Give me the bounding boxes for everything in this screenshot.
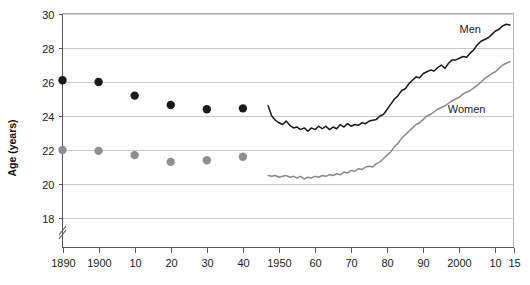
data-point-marker [239, 153, 247, 161]
y-axis-title: Age (years) [6, 119, 18, 176]
women-trend-line [268, 62, 510, 179]
data-point-marker [203, 156, 211, 164]
data-point-marker [94, 147, 102, 155]
men-data-points-group [58, 76, 247, 113]
x-tick-label: 80 [381, 257, 393, 269]
x-tick-label: 1890 [51, 257, 75, 269]
data-point-marker [203, 105, 211, 113]
data-point-marker [167, 158, 175, 166]
x-tick-label: 1900 [87, 257, 111, 269]
data-point-marker [94, 78, 102, 86]
x-tick-label: 70 [345, 257, 357, 269]
women-data-points-group [58, 146, 247, 166]
x-tick-label: 2000 [447, 257, 471, 269]
x-tick-label: 40 [237, 257, 249, 269]
data-point-marker [130, 151, 138, 159]
x-tick-label: 60 [309, 257, 321, 269]
men-label: Men [459, 23, 480, 35]
gridlines-group [63, 15, 514, 219]
x-axis-ticks-group: 189019001020304019506070809020001015 [51, 248, 520, 269]
y-tick-label: 26 [42, 77, 54, 89]
women-label: Women [448, 103, 486, 115]
y-tick-label: 22 [42, 145, 54, 157]
y-tick-label: 28 [42, 43, 54, 55]
x-tick-label: 15 [508, 257, 520, 269]
data-point-marker [167, 101, 175, 109]
y-tick-label: 24 [42, 111, 54, 123]
chart-container: 18202224262830 1890190010203040195060708… [0, 0, 530, 285]
x-tick-label: 20 [165, 257, 177, 269]
x-tick-label: 1950 [267, 257, 291, 269]
men-trend-line [268, 24, 510, 131]
age-at-marriage-line-chart: 18202224262830 1890190010203040195060708… [0, 0, 530, 285]
data-point-marker [58, 146, 66, 154]
x-tick-label: 30 [201, 257, 213, 269]
x-tick-label: 10 [129, 257, 141, 269]
y-tick-label: 18 [42, 213, 54, 225]
data-point-marker [130, 91, 138, 99]
y-tick-label: 30 [42, 9, 54, 21]
data-point-marker [239, 104, 247, 112]
x-tick-label: 90 [417, 257, 429, 269]
y-axis-ticks-group: 18202224262830 [42, 9, 62, 225]
data-point-marker [58, 76, 66, 84]
x-tick-label: 10 [489, 257, 501, 269]
y-tick-label: 20 [42, 179, 54, 191]
